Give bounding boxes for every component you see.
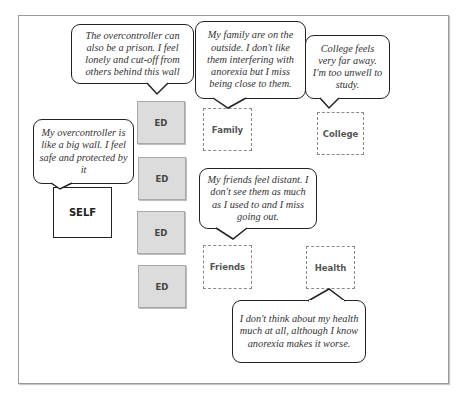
family-box: Family (203, 108, 252, 151)
bubble-text-family: My family are on the outside. I don't li… (201, 29, 300, 90)
friends-box: Friends (203, 245, 252, 289)
family-label: Family (212, 125, 243, 135)
self-box: SELF (53, 187, 112, 238)
bubble-tail-college (319, 97, 341, 110)
health-box: Health (306, 246, 355, 289)
health-label: Health (315, 263, 347, 273)
friends-label: Friends (210, 262, 245, 272)
ed-label: ED (156, 282, 169, 292)
ed-box-1: ED (137, 101, 185, 144)
speech-bubble-college: College feels very far away. I'm too unw… (305, 35, 390, 99)
college-box: College (317, 112, 364, 155)
speech-bubble-friends: My friends feel distant. I don't see the… (199, 168, 317, 229)
speech-bubble-family: My family are on the outside. I don't li… (195, 21, 306, 99)
ed-label: ED (156, 174, 169, 184)
bubble-text-self: My overcontroller is like a big wall. I … (39, 127, 128, 176)
bubble-tail-family (212, 97, 248, 111)
self-label: SELF (69, 207, 96, 218)
speech-bubble-prison: The overcontroller can also be a prison.… (71, 24, 194, 84)
bubble-tail-health (307, 288, 347, 302)
ed-label: ED (155, 118, 168, 128)
ed-box-3: ED (137, 211, 185, 254)
bubble-text-friends: My friends feel distant. I don't see the… (205, 174, 311, 223)
speech-bubble-self: My overcontroller is like a big wall. I … (33, 119, 134, 184)
ed-box-2: ED (138, 157, 186, 200)
bubble-text-college: College feels very far away. I'm too unw… (311, 43, 384, 92)
ed-label: ED (155, 228, 168, 238)
ed-box-4: ED (138, 265, 186, 308)
bubble-text-health: I don't think about my health much at al… (238, 313, 360, 350)
bubble-tail-self (50, 182, 74, 192)
bubble-tail-friends (215, 227, 249, 241)
college-label: College (323, 129, 359, 139)
bubble-tail-prison (146, 82, 170, 96)
speech-bubble-health: I don't think about my health much at al… (232, 300, 366, 363)
bubble-text-prison: The overcontroller can also be a prison.… (77, 30, 188, 79)
